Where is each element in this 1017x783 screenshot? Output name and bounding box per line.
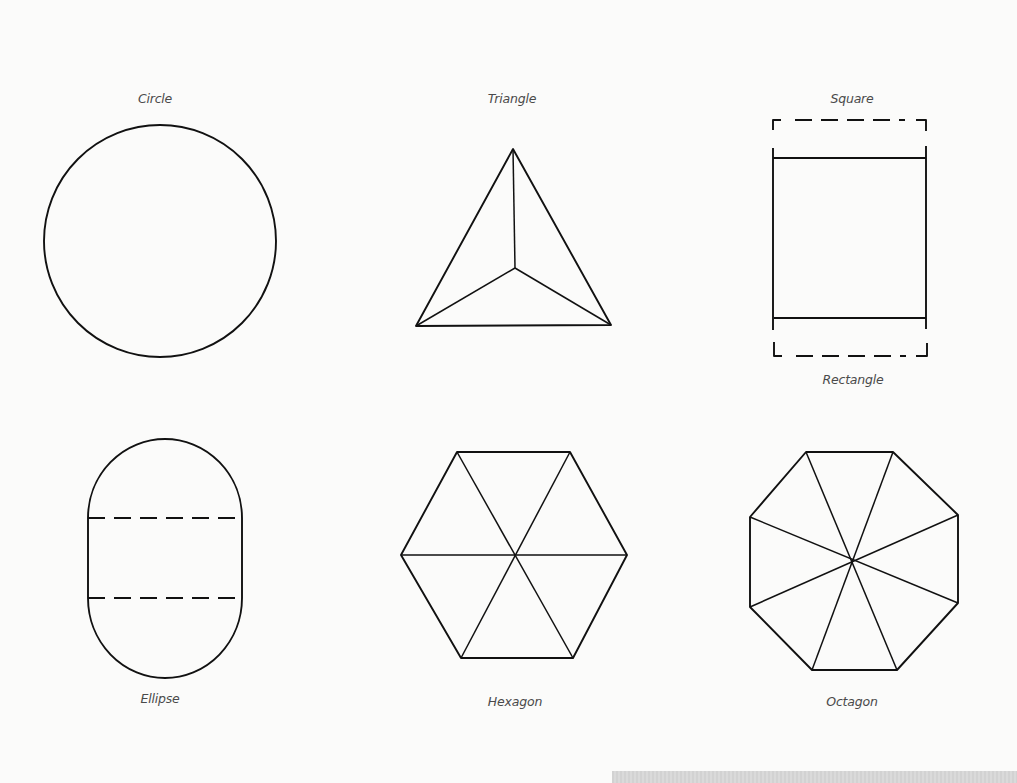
hexagon-label: Hexagon — [488, 694, 542, 709]
octagon-shape — [750, 452, 958, 670]
square-label: Square — [830, 91, 873, 106]
rectangle-label: Rectangle — [822, 372, 883, 387]
triangle-label: Triangle — [488, 91, 536, 106]
page-edge-band — [612, 771, 1017, 783]
octagon-label: Octagon — [826, 694, 877, 709]
circle-shape — [44, 125, 276, 357]
ellipse-label: Ellipse — [140, 691, 179, 706]
triangle-shape — [416, 149, 611, 326]
ellipse-shape — [88, 439, 242, 678]
hexagon-shape — [401, 452, 627, 658]
square-rectangle-shape — [773, 120, 927, 356]
shapes-diagram — [0, 0, 1017, 783]
circle-label: Circle — [138, 91, 172, 106]
